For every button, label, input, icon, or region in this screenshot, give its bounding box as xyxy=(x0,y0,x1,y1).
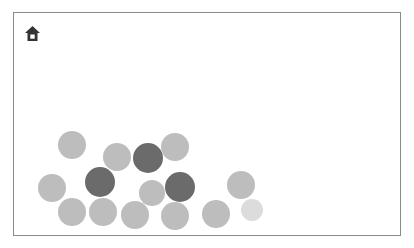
ball-light[interactable] xyxy=(161,202,189,230)
ball-light[interactable] xyxy=(161,133,189,161)
home-button[interactable] xyxy=(24,25,41,42)
ball-light[interactable] xyxy=(202,200,230,228)
ball-dark[interactable] xyxy=(133,143,163,173)
ball-light[interactable] xyxy=(227,171,255,199)
home-icon xyxy=(24,25,41,42)
ball-light[interactable] xyxy=(121,201,149,229)
ball-light[interactable] xyxy=(89,198,117,226)
ball-light[interactable] xyxy=(103,143,131,171)
ball-light[interactable] xyxy=(38,174,66,202)
ball-light[interactable] xyxy=(139,180,165,206)
ball-light[interactable] xyxy=(58,131,86,159)
ball-faint[interactable] xyxy=(241,199,263,221)
ball-dark[interactable] xyxy=(165,172,195,202)
ball-light[interactable] xyxy=(58,198,86,226)
ball-dark[interactable] xyxy=(85,167,115,197)
